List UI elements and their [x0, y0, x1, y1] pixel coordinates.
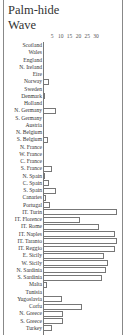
x-tick-label: 10	[58, 33, 64, 39]
bar-row: W. France	[0, 151, 129, 158]
x-tick-label: 5	[51, 33, 54, 39]
category-label: Malta	[29, 281, 42, 288]
bar	[43, 108, 56, 114]
bar	[43, 180, 49, 186]
category-label: Sweden	[24, 86, 42, 93]
x-tick-label: 15	[67, 33, 73, 39]
bar	[43, 217, 80, 223]
chart-title: Palm-hide Wave	[8, 3, 59, 33]
bar	[43, 209, 117, 215]
bar	[43, 267, 106, 273]
bar-row: Malta	[0, 281, 129, 288]
bar-row: C. France	[0, 158, 129, 165]
category-label: C. France	[20, 158, 42, 165]
bar-row: IT. Turin	[0, 209, 129, 216]
category-label: Austria	[26, 122, 42, 129]
category-label: C. Spain	[23, 180, 42, 187]
category-label: Denmark	[21, 93, 42, 100]
category-label: Turkey	[26, 325, 42, 332]
bar	[43, 137, 48, 143]
bar	[43, 253, 104, 259]
bar-row: S. Spain	[0, 187, 129, 194]
category-label: N. France	[20, 144, 42, 151]
bar-row: W. Sicily	[0, 260, 129, 267]
category-label: E. Sicily	[23, 252, 42, 259]
bar-row: IT. Taranto	[0, 238, 129, 245]
bar	[43, 231, 115, 237]
bar	[43, 202, 50, 208]
bar-row: IT. Rome	[0, 223, 129, 230]
category-label: Yugoslavia	[17, 296, 42, 303]
bar-row: Denmark	[0, 93, 129, 100]
bar-row: S. Sardinia	[0, 274, 129, 281]
chart-title-line1: Palm-hide	[8, 3, 59, 18]
x-tick-label: 30	[93, 33, 99, 39]
bar	[43, 173, 45, 179]
bar	[43, 318, 63, 324]
category-label: N. Belgium	[16, 129, 42, 136]
category-label: Eire	[33, 71, 42, 78]
category-label: W. Sicily	[21, 260, 42, 267]
bar-row: Norway	[0, 78, 129, 85]
category-label: N. Spain	[22, 173, 42, 180]
bar-row: N. Belgium	[0, 129, 129, 136]
category-label: S. France	[21, 165, 42, 172]
bar-row: E. Sicily	[0, 252, 129, 259]
bar-row: Eire	[0, 71, 129, 78]
bar	[43, 188, 56, 194]
bar-row: S. Belgium	[0, 136, 129, 143]
bar-row: N. France	[0, 144, 129, 151]
bar-row: Turkey	[0, 325, 129, 332]
category-label: N. Ireland	[19, 64, 42, 71]
bar	[43, 275, 102, 281]
category-label: S. Germany	[15, 115, 42, 122]
bar-row: Wales	[0, 49, 129, 56]
category-label: Scotland	[22, 42, 42, 49]
category-label: W. France	[19, 151, 42, 158]
bar-row: Tunisia	[0, 289, 129, 296]
category-label: S. Greece	[20, 318, 42, 325]
bar	[43, 246, 115, 252]
category-label: Corfu	[29, 303, 42, 310]
bar	[43, 325, 52, 331]
bar-row: England	[0, 57, 129, 64]
bar	[43, 195, 46, 201]
bar-row: IT. Reggio	[0, 245, 129, 252]
category-label: Norway	[24, 78, 42, 85]
bar-row: N. Germany	[0, 107, 129, 114]
bar-row: Scotland	[0, 42, 129, 49]
category-label: S. Sardinia	[17, 274, 42, 281]
bar-row: C. Spain	[0, 180, 129, 187]
bar	[43, 304, 82, 310]
category-label: N. Germany	[14, 107, 42, 114]
category-label: IT. Florence	[15, 216, 42, 223]
category-label: IT. Rome	[21, 223, 42, 230]
category-label: Portugal	[23, 202, 42, 209]
bar-row: S. France	[0, 165, 129, 172]
bar	[43, 311, 63, 317]
bar	[43, 296, 62, 302]
bar	[43, 166, 52, 172]
bar-row: Canaries	[0, 194, 129, 201]
bar-row: Portugal	[0, 202, 129, 209]
bar-row: N. Sardinia	[0, 267, 129, 274]
category-label: N. Greece	[19, 310, 42, 317]
bar	[43, 260, 108, 266]
category-label: IT. Naples	[19, 231, 42, 238]
bar-row: Yugoslavia	[0, 296, 129, 303]
bar-row: S. Greece	[0, 318, 129, 325]
bar	[43, 224, 99, 230]
category-label: IT. Reggio	[18, 245, 42, 252]
bar-rows: ScotlandWalesEnglandN. IrelandEireNorway…	[0, 42, 129, 332]
bar-row: IT. Naples	[0, 231, 129, 238]
bar-row: N. Greece	[0, 310, 129, 317]
x-tick-label: 25	[84, 33, 90, 39]
bar-row: Austria	[0, 122, 129, 129]
bar-row: S. Germany	[0, 115, 129, 122]
bar-row: N. Ireland	[0, 64, 129, 71]
bar	[43, 238, 117, 244]
bar	[43, 79, 49, 85]
category-label: England	[23, 57, 42, 64]
bar-row: Corfu	[0, 303, 129, 310]
category-label: Wales	[28, 49, 42, 56]
